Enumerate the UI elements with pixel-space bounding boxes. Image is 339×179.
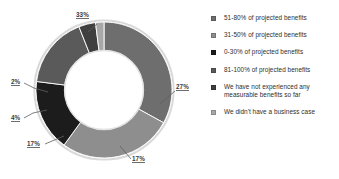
data-label-33: 33% [76,11,89,18]
legend-item-3[interactable]: 0-30% of projected benefits [211,48,335,56]
legend-swatch-icon-3 [211,50,216,55]
legend-item-1[interactable]: 51-80% of projected benefits [211,14,335,22]
legend-swatch-icon-4 [211,68,216,73]
donut-chart-figure: 33% 27% 17% 17% 4% 2% 51-80% of projecte… [0,0,339,179]
donut-svg [0,0,205,179]
donut-center-hole [65,51,144,130]
legend-label-3: 0-30% of projected benefits [224,48,303,56]
legend-swatch-icon-5 [211,85,216,90]
data-label-4: 4% [11,114,20,121]
legend-label-6: We didn't have a business case [224,108,315,116]
data-label-27: 27% [176,83,189,90]
legend-label-4: 81-100% of projected benefits [224,66,310,74]
legend-item-2[interactable]: 31-50% of projected benefits [211,31,335,39]
legend-label-2: 31-50% of projected benefits [224,31,307,39]
data-label-17-bottom-right: 17% [132,155,145,162]
legend-label-1: 51-80% of projected benefits [224,14,307,22]
legend: 51-80% of projected benefits31-50% of pr… [205,0,339,179]
legend-item-5[interactable]: We have not experienced any measurable b… [211,83,335,99]
data-label-17-bottom-left: 17% [27,140,40,147]
legend-swatch-icon-6 [211,110,216,115]
data-label-2: 2% [11,78,20,85]
legend-item-6[interactable]: We didn't have a business case [211,108,335,116]
legend-item-4[interactable]: 81-100% of projected benefits [211,66,335,74]
legend-label-5: We have not experienced any measurable b… [224,83,328,99]
legend-swatch-icon-2 [211,33,216,38]
donut-plot-area: 33% 27% 17% 17% 4% 2% [0,0,205,179]
donut-slice-group [34,20,173,159]
legend-swatch-icon-1 [211,16,216,21]
